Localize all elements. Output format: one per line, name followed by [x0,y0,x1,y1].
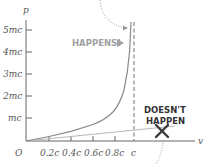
y-tick-label: 2mc [2,91,22,101]
x-ticks [49,136,115,141]
y-tick-label: 4mc [2,47,22,57]
doesnt-happen-label-line2: HAPPEN [146,116,185,126]
x-tick-label: 0.8c [105,148,124,158]
x-axis-label: v [198,136,203,146]
momentum-velocity-diagram: p v O 5mc 4mc 3mc 2mc mc 0.2c 0.4c 0.6c … [0,0,208,164]
dotted-arrow-top [100,0,126,28]
doesnt-happen-label-line1: DOESN'T [144,105,186,115]
classical-momentum-line [26,126,175,141]
x-tick-label: 0.6c [84,148,103,158]
y-axis-label: p [23,5,29,15]
y-ticks [26,30,32,118]
x-tick-label: c [131,148,136,158]
y-tick-label: 5mc [3,25,22,35]
dotted-arrow-bottom [156,140,163,164]
happens-label: HAPPENS! [72,38,121,48]
x-tick-label: 0.4c [62,148,81,158]
x-tick-label: 0.2c [40,148,59,158]
origin-label: O [15,148,23,158]
arrowhead-icon [123,26,128,31]
cross-icon [156,125,168,137]
y-tick-label: 3mc [3,69,22,79]
y-tick-label: mc [8,113,22,123]
